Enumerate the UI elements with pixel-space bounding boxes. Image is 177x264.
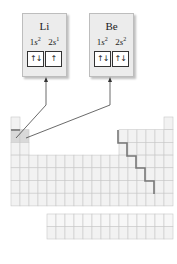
table-cell [20, 193, 29, 206]
table-cell [38, 168, 47, 181]
table-cell [74, 227, 83, 240]
table-cell [155, 130, 164, 143]
table-cell [164, 155, 173, 168]
f-block-grid [47, 214, 173, 239]
table-cell [92, 168, 101, 181]
table-cell [20, 181, 29, 194]
table-cell [119, 181, 128, 194]
table-cell [146, 142, 155, 155]
table-cell [155, 168, 164, 181]
periodic-table-grid [11, 117, 173, 206]
table-cell [74, 214, 83, 227]
table-cell [83, 214, 92, 227]
table-cell [110, 155, 119, 168]
table-cell [38, 193, 47, 206]
table-cell [11, 193, 20, 206]
table-cell [92, 214, 101, 227]
table-cell [65, 193, 74, 206]
table-cell [83, 193, 92, 206]
table-cell [38, 181, 47, 194]
table-cell [137, 193, 146, 206]
table-cell [155, 227, 164, 240]
table-cell [101, 227, 110, 240]
table-cell [83, 168, 92, 181]
table-cell [164, 168, 173, 181]
table-cell [11, 181, 20, 194]
periodic-table-outline [0, 0, 177, 264]
table-cell [119, 130, 128, 143]
table-cell [110, 227, 119, 240]
table-cell [119, 155, 128, 168]
table-cell [137, 155, 146, 168]
table-cell [110, 168, 119, 181]
table-cell [110, 181, 119, 194]
table-cell [56, 181, 65, 194]
table-cell [65, 214, 74, 227]
table-cell [29, 155, 38, 168]
table-cell [110, 193, 119, 206]
table-cell [146, 227, 155, 240]
table-cell [65, 181, 74, 194]
table-cell [11, 155, 20, 168]
table-cell [74, 155, 83, 168]
table-cell [119, 193, 128, 206]
table-cell [83, 155, 92, 168]
table-cell [128, 181, 137, 194]
table-cell [164, 181, 173, 194]
table-cell [11, 130, 20, 143]
be-arrowhead-icon [108, 77, 112, 82]
table-cell [128, 214, 137, 227]
be-pointer-arrow [26, 80, 110, 138]
table-cell [47, 193, 56, 206]
table-cell [74, 181, 83, 194]
li-arrowhead-icon [44, 77, 48, 82]
table-cell [164, 117, 173, 130]
table-cell [110, 214, 119, 227]
table-cell [56, 227, 65, 240]
table-cell [146, 193, 155, 206]
table-cell [29, 181, 38, 194]
table-cell [56, 214, 65, 227]
table-cell [47, 181, 56, 194]
table-cell [20, 142, 29, 155]
table-cell [29, 193, 38, 206]
table-cell [92, 227, 101, 240]
table-cell [128, 227, 137, 240]
table-cell [119, 227, 128, 240]
table-cell [164, 130, 173, 143]
table-cell [83, 181, 92, 194]
table-cell [65, 168, 74, 181]
table-cell [92, 181, 101, 194]
table-cell [47, 168, 56, 181]
table-cell [101, 168, 110, 181]
table-cell [137, 227, 146, 240]
table-cell [146, 130, 155, 143]
table-cell [164, 214, 173, 227]
table-cell [74, 193, 83, 206]
table-cell [146, 214, 155, 227]
table-cell [137, 130, 146, 143]
table-cell [11, 117, 20, 130]
table-cell [83, 227, 92, 240]
table-cell [11, 168, 20, 181]
table-cell [56, 155, 65, 168]
table-cell [128, 130, 137, 143]
table-cell [65, 227, 74, 240]
table-cell [20, 155, 29, 168]
table-cell [128, 193, 137, 206]
table-cell [137, 181, 146, 194]
table-cell [155, 214, 164, 227]
table-cell [146, 155, 155, 168]
table-cell [47, 155, 56, 168]
table-cell [137, 214, 146, 227]
table-cell [47, 227, 56, 240]
table-cell [164, 193, 173, 206]
table-cell [164, 142, 173, 155]
table-cell [128, 168, 137, 181]
table-cell [164, 227, 173, 240]
table-cell [92, 193, 101, 206]
table-cell [155, 181, 164, 194]
table-cell [137, 142, 146, 155]
table-cell [119, 214, 128, 227]
table-cell [128, 142, 137, 155]
